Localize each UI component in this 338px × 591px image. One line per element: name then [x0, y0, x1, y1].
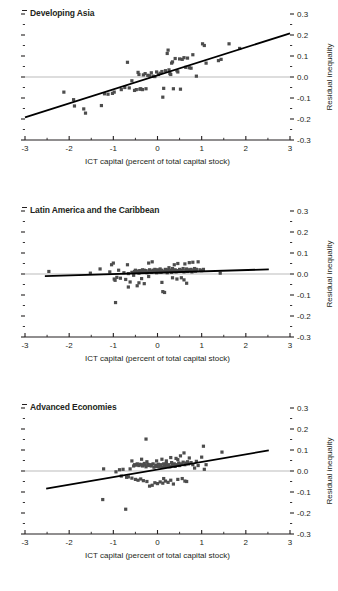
- data-point-marker: [169, 73, 172, 76]
- trend-line: [25, 33, 290, 117]
- panel-title: Latin America and the Caribbean: [30, 205, 159, 215]
- data-point-marker: [176, 478, 179, 481]
- data-point-group: [62, 42, 241, 115]
- data-point-marker: [130, 477, 133, 480]
- data-point-marker: [155, 459, 158, 462]
- x-axis-tick-label: -2: [66, 538, 74, 547]
- chart-panel: -0.3-0.2-0.10.00.10.20.3Residual inequal…: [0, 394, 338, 591]
- data-point-group: [47, 260, 222, 304]
- data-point-marker: [130, 79, 133, 82]
- data-point-marker: [189, 67, 192, 70]
- x-axis-title: ICT capital (percent of total capital st…: [85, 354, 230, 363]
- data-point-marker: [113, 91, 116, 94]
- x-axis-tick-label: -3: [21, 341, 29, 350]
- data-point-marker: [135, 88, 138, 91]
- y-axis-tick-label: 0.3: [297, 207, 309, 216]
- x-axis-tick-label: -3: [21, 144, 29, 153]
- data-point-marker: [82, 107, 85, 110]
- title-dash-icon: [22, 404, 27, 405]
- data-point-marker: [126, 263, 129, 266]
- data-point-marker: [115, 276, 118, 279]
- y-axis-tick-label: -0.1: [297, 488, 311, 497]
- data-point-marker: [119, 277, 122, 280]
- data-point-marker: [176, 458, 179, 461]
- data-point-marker: [186, 57, 189, 60]
- data-point-marker: [202, 445, 205, 448]
- data-point-marker: [112, 261, 115, 264]
- x-axis-tick-label: 2: [244, 538, 249, 547]
- x-axis-tick-label: -1: [110, 144, 118, 153]
- data-point-marker: [84, 112, 87, 115]
- data-point-marker: [142, 479, 145, 482]
- data-point-marker: [47, 270, 50, 273]
- data-point-marker: [147, 275, 150, 278]
- data-point-marker: [167, 49, 170, 52]
- x-axis-tick-label: 2: [244, 144, 249, 153]
- data-point-marker: [137, 281, 140, 284]
- figure-root: -0.3-0.2-0.10.00.10.20.3Residual inequal…: [0, 0, 338, 591]
- data-point-marker: [102, 467, 105, 470]
- data-point-marker: [144, 437, 147, 440]
- data-point-marker: [188, 261, 191, 264]
- data-point-marker: [163, 291, 166, 294]
- data-point-marker: [204, 62, 207, 65]
- y-axis-tick-label: 0.2: [297, 228, 309, 237]
- data-point-marker: [183, 479, 186, 482]
- data-point-marker: [147, 261, 150, 264]
- data-point-marker: [62, 91, 65, 94]
- data-point-marker: [160, 458, 163, 461]
- x-axis-tick-label: -2: [66, 144, 74, 153]
- data-point-marker: [169, 456, 172, 459]
- x-axis-tick-label: 0: [155, 341, 160, 350]
- data-point-marker: [126, 61, 129, 64]
- data-point-marker: [145, 480, 148, 483]
- data-point-marker: [220, 451, 223, 454]
- y-axis-tick-label: -0.3: [297, 136, 311, 145]
- data-point-marker: [182, 278, 185, 281]
- panel-title: Developing Asia: [30, 8, 94, 18]
- data-point-marker: [191, 261, 194, 264]
- data-point-marker: [176, 70, 179, 73]
- y-axis-tick-label: -0.3: [297, 530, 311, 539]
- data-point-group: [101, 437, 223, 510]
- data-point-marker: [193, 466, 196, 469]
- x-axis-tick-label: -3: [21, 538, 29, 547]
- data-point-marker: [73, 104, 76, 107]
- data-point-marker: [162, 87, 165, 90]
- data-point-marker: [204, 463, 207, 466]
- chart-panel: -0.3-0.2-0.10.00.10.20.3Residual inequal…: [0, 197, 338, 394]
- y-axis-tick-label: -0.2: [297, 115, 311, 124]
- x-axis-tick-label: 3: [288, 538, 293, 547]
- data-point-marker: [140, 458, 143, 461]
- y-axis-tick-label: -0.1: [297, 94, 311, 103]
- data-point-marker: [127, 475, 130, 478]
- data-point-marker: [118, 468, 121, 471]
- data-point-marker: [220, 58, 223, 61]
- x-axis-tick-label: -1: [110, 341, 118, 350]
- x-axis-tick-label: 1: [199, 538, 204, 547]
- data-point-marker: [171, 276, 174, 279]
- data-point-marker: [150, 71, 153, 74]
- data-point-marker: [179, 454, 182, 457]
- data-point-marker: [176, 262, 179, 265]
- data-point-marker: [185, 282, 188, 285]
- title-dash-icon: [22, 207, 27, 208]
- data-point-marker: [124, 278, 127, 281]
- data-point-marker: [136, 284, 139, 287]
- scatter-plot: -0.3-0.2-0.10.00.10.20.3Residual inequal…: [0, 197, 338, 394]
- data-point-marker: [117, 269, 120, 272]
- data-point-marker: [191, 53, 194, 56]
- data-point-marker: [160, 281, 163, 284]
- data-point-marker: [98, 267, 101, 270]
- data-point-marker: [162, 477, 165, 480]
- y-axis-tick-label: 0.0: [297, 467, 309, 476]
- scatter-plot: -0.3-0.2-0.10.00.10.20.3Residual inequal…: [0, 0, 338, 197]
- y-axis-tick-label: 0.3: [297, 404, 309, 413]
- data-point-marker: [173, 263, 176, 266]
- x-axis-title: ICT capital (percent of total capital st…: [85, 551, 230, 560]
- data-point-marker: [121, 468, 124, 471]
- data-point-marker: [120, 88, 123, 91]
- data-point-marker: [203, 468, 206, 471]
- x-axis-tick-label: 1: [199, 144, 204, 153]
- data-point-marker: [169, 479, 172, 482]
